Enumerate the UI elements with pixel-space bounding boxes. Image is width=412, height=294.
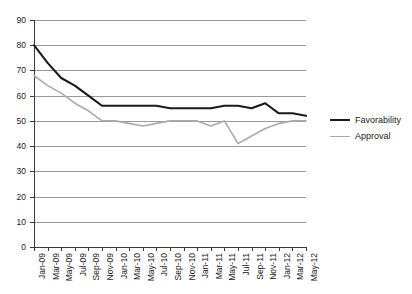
legend-swatch-icon xyxy=(330,119,350,121)
legend-item-approval[interactable]: Approval xyxy=(330,128,401,144)
legend-label: Approval xyxy=(355,131,391,141)
series-layer xyxy=(0,0,412,294)
chart-legend: FavorabilityApproval xyxy=(330,112,401,144)
legend-label: Favorability xyxy=(355,115,401,125)
legend-item-favorability[interactable]: Favorability xyxy=(330,112,401,128)
legend-swatch-icon xyxy=(330,136,350,137)
series-line-favorability xyxy=(34,45,306,116)
line-chart: 0102030405060708090 Jan-09Mar-09May-09Ju… xyxy=(0,0,412,294)
